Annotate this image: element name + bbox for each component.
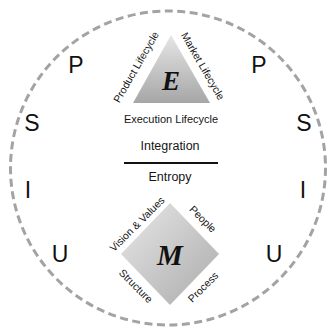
ring-letter-right-p: P <box>251 54 266 77</box>
ring-letter-left-i: I <box>25 179 31 202</box>
ring-letter-left-u: U <box>52 243 69 266</box>
diagram-shapes <box>0 0 329 333</box>
ring-letter-right-u: U <box>266 243 283 266</box>
ring-letter-left-p: P <box>68 54 83 77</box>
execution-letter-e: E <box>162 68 180 95</box>
pspu-diagram: P S I U P S I U E Product Lifecycle Mark… <box>0 0 329 333</box>
management-letter-m: M <box>157 241 183 270</box>
integration-label: Integration <box>140 140 199 153</box>
execution-lifecycle-label: Execution Lifecycle <box>124 114 218 125</box>
ring-letter-left-s: S <box>24 112 39 135</box>
ring-letter-right-i: I <box>300 179 306 202</box>
ring-letter-right-s: S <box>296 112 311 135</box>
entropy-label: Entropy <box>148 171 191 184</box>
